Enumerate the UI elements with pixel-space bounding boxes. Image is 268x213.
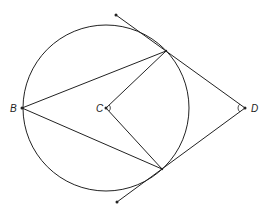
label-D: D [251, 103, 258, 114]
label-B: B [10, 103, 17, 114]
diagram-svg: B C D [0, 0, 268, 213]
radius-C-T2 [106, 108, 162, 169]
point-E2 [116, 201, 119, 204]
label-C: C [96, 103, 104, 114]
point-C [105, 107, 108, 110]
segment-B-T1 [22, 51, 166, 108]
point-D [244, 107, 247, 110]
point-B [21, 107, 24, 110]
angle-mark-D [238, 104, 240, 112]
radius-C-T1 [106, 51, 166, 108]
angle-mark-C [109, 105, 110, 111]
point-T1 [165, 50, 167, 52]
point-E1 [115, 14, 118, 17]
segment-B-T2 [22, 108, 162, 169]
tangent-line-top [116, 15, 245, 108]
point-T2 [161, 168, 163, 170]
geometry-diagram: B C D [0, 0, 268, 213]
tangent-line-bottom [117, 108, 245, 202]
